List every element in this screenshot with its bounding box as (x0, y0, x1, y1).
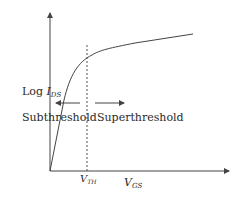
x-axis-label: VGS (124, 176, 143, 190)
y-axis-label: Log IDS (22, 85, 61, 99)
superthreshold-label: Superthreshold (97, 111, 184, 124)
threshold-label: VTH (80, 173, 97, 185)
diagram-canvas: Log IDS Subthreshold Superthreshold VTH … (0, 0, 241, 199)
subthreshold-label: Subthreshold (22, 111, 97, 124)
